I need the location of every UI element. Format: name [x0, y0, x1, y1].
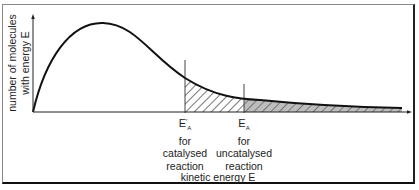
y-axis-label-line1: number of molecules: [6, 8, 19, 118]
uncatalysed-label-text: uncatalysed: [204, 147, 284, 160]
uncatalysed-label-for: for: [204, 135, 284, 148]
uncatalysed-ea-label: EA for uncatalysed reaction: [204, 117, 284, 172]
x-axis-arrow-icon: [407, 110, 412, 114]
uncatalysed-ea-symbol: EA: [204, 117, 284, 135]
uncatalysed-region-hatch: [244, 20, 404, 112]
y-axis-label-line2: with energy E: [19, 8, 32, 118]
x-axis-label: kinetic energy E: [168, 171, 268, 183]
y-axis-label: number of molecules with energy E: [6, 8, 34, 118]
